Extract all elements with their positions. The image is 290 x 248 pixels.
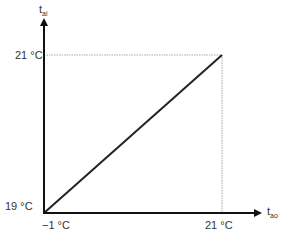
x-axis-label: tao — [267, 205, 278, 219]
y-axis-label: tai — [39, 3, 48, 17]
x-tick-right: 21 °C — [205, 219, 233, 231]
x-tick-left: −1 °C — [42, 219, 70, 231]
chart: tai tao 21 °C 19 °C −1 °C 21 °C — [0, 0, 290, 248]
y-tick-bottom: 19 °C — [5, 200, 33, 212]
y-tick-top: 21 °C — [15, 49, 43, 61]
data-line — [44, 55, 222, 213]
